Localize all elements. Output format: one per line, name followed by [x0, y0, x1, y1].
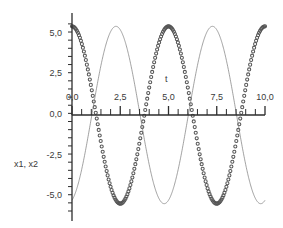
x-axis-title: t: [165, 74, 168, 84]
y-axis-title: x1, x2: [14, 159, 38, 169]
y-tick-label: 5,0: [0, 28, 62, 38]
y-tick-label: 0,0: [0, 109, 62, 119]
x-tick-label: 0,0: [66, 92, 96, 102]
x-tick-label: 7,5: [202, 92, 232, 102]
x-tick-label: 5,0: [154, 92, 184, 102]
y-tick-label: -5,0: [0, 190, 62, 200]
x-tick-label: 10,0: [250, 92, 280, 102]
y-tick-label: 2,5: [0, 68, 62, 78]
chart-figure: 5,02,50,0-2,5-5,00,02,55,07,510,0 x1, x2…: [0, 0, 283, 228]
x-tick-label: 2,5: [105, 92, 135, 102]
